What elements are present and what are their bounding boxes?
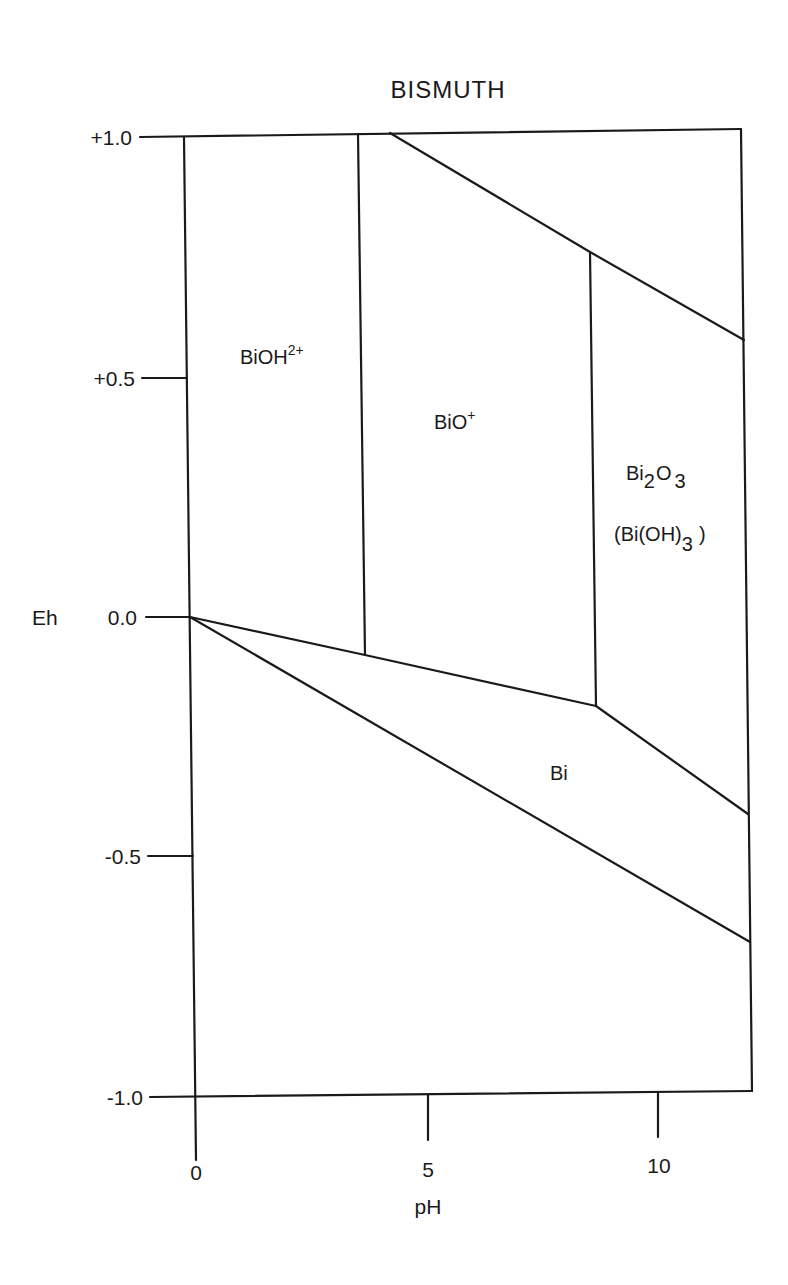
region-text: BiO [434,411,467,433]
x-axis-label: pH [415,1195,442,1218]
region-label-bioplus: BiO+ [434,407,476,433]
plot-frame [140,129,752,1160]
region-text: ) [699,523,706,545]
superscript: 2+ [288,342,304,358]
subscript: 3 [682,533,693,555]
region-labels: BiOH2+ BiO+ Bi2O3 (Bi(OH)3) Bi [240,342,706,784]
region-text: Bi [626,462,644,484]
subscript: 2 [644,470,655,492]
x-tick-label: 5 [422,1158,434,1181]
y-axis-ticks [142,378,193,856]
y-tick-label: +1.0 [91,126,132,149]
region-label-bioh3: (Bi(OH)3) [614,523,706,555]
region-text: O [656,462,672,484]
superscript: + [467,407,475,423]
boundary-bio-bi2o3 [590,252,596,706]
region-label-bioh2plus: BiOH2+ [240,342,304,368]
lower-water-line [190,617,750,942]
upper-water-line [390,133,744,340]
eh-ph-diagram: BISMUTH +1.0 +0.5 0.0 -0.5 -1.0 Eh 0 5 1… [0,0,788,1285]
y-tick-labels: +1.0 +0.5 0.0 -0.5 -1.0 [91,126,143,1109]
region-text: (Bi(OH) [614,523,682,545]
x-axis-ticks [428,1092,658,1140]
frame-top [140,129,741,137]
subscript: 3 [674,470,685,492]
y-tick-label: +0.5 [94,367,135,390]
frame-bottom [150,1091,752,1097]
x-tick-label: 10 [647,1154,670,1177]
x-tick-labels: 0 5 10 [190,1154,671,1184]
y-axis-line [184,137,196,1160]
region-text: BiOH [240,346,288,368]
y-tick-label: 0.0 [108,606,137,629]
y-tick-label: -1.0 [107,1086,143,1109]
region-label-bi: Bi [550,762,568,784]
frame-right [741,129,752,1091]
region-label-bi2o3: Bi2O3 [626,462,686,492]
boundary-bioh-bio [358,134,365,655]
chart-title: BISMUTH [391,76,506,103]
x-tick-label: 0 [190,1161,202,1184]
bi-metal-boundary [190,617,748,814]
y-tick-label: -0.5 [105,845,141,868]
y-axis-label: Eh [32,606,58,629]
